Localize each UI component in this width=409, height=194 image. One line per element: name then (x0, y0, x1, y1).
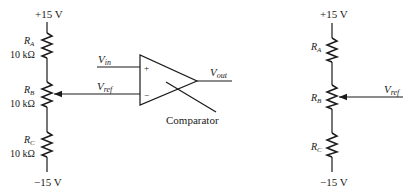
label-ra: RA (23, 35, 35, 48)
right-resistor-rb-potentiometer-icon (327, 85, 337, 109)
label-vout: Vout (210, 66, 228, 80)
right-label-rc: RC (310, 141, 322, 154)
value-ra: 10 kΩ (10, 49, 35, 60)
label-vin: Vin (98, 53, 111, 67)
resistor-ra-icon (42, 33, 52, 58)
right-label-vref: Vref (384, 83, 401, 97)
value-rc: 10 kΩ (10, 148, 35, 159)
comparator-leader-line (166, 82, 216, 112)
left-supply-positive-label: +15 V (35, 8, 63, 20)
right-label-ra: RA (310, 41, 322, 54)
noninverting-input-sign: + (144, 63, 149, 73)
right-supply-positive-label: +15 V (320, 8, 348, 20)
resistor-rb-potentiometer-icon (42, 82, 52, 107)
right-label-rb: RB (310, 92, 322, 105)
right-supply-negative-label: −15 V (320, 176, 348, 188)
inverting-input-sign: − (144, 90, 149, 100)
label-rc: RC (23, 134, 35, 147)
resistor-rc-icon (42, 132, 52, 157)
value-rb: 10 kΩ (10, 98, 35, 109)
left-supply-negative-label: −15 V (34, 176, 62, 188)
label-vref-left: Vref (97, 80, 114, 94)
comparator-op-amp: + − Vout Comparator (140, 55, 232, 126)
right-resistor-ra-icon (327, 38, 337, 62)
right-voltage-divider: +15 V RA RB RC −15 V Vref (310, 8, 403, 188)
left-voltage-divider: +15 V RA 10 kΩ RB 10 kΩ RC 10 kΩ −15 V (10, 8, 63, 188)
label-rb: RB (23, 84, 35, 97)
right-resistor-rc-icon (327, 133, 337, 157)
comparator-label: Comparator (166, 114, 219, 126)
